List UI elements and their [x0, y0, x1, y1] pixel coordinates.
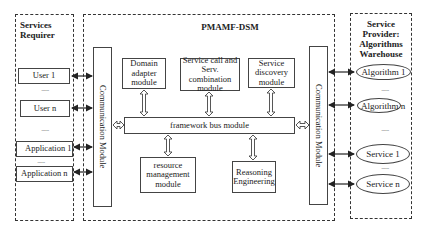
- service-provider-title: Service Provider: Algorithms Warehouse: [351, 19, 411, 59]
- left-communication-module: Communication Module: [93, 47, 112, 207]
- requirer-application-n: Application n: [16, 166, 73, 182]
- requirer-user-n: User n: [20, 100, 70, 117]
- requirer-application-1: Application 1: [16, 141, 73, 157]
- framework-bus-module: framework bus module: [124, 117, 295, 134]
- resource-management-module: resource management module: [140, 157, 196, 193]
- ellipsis: ......: [30, 85, 60, 93]
- requirer-user-1: User 1: [18, 68, 70, 84]
- service-discovery-module: Service discovery module: [248, 58, 295, 88]
- ellipsis: ......: [30, 125, 60, 133]
- services-requirer-title: Services Requirer: [20, 20, 70, 40]
- ellipsis: ......: [26, 157, 56, 165]
- reasoning-engineering-module: Reasoning Engineering: [232, 161, 276, 193]
- domain-adapter-module: Domain adapter module: [122, 58, 166, 89]
- services-requirer-panel: [15, 14, 74, 221]
- pmamf-dsm-title: PMAMF-DSM: [190, 22, 270, 32]
- ellipsis: ......: [370, 163, 400, 171]
- ellipsis: ......: [370, 125, 400, 133]
- provider-service-1: Service 1: [356, 144, 410, 164]
- provider-service-n: Service n: [356, 174, 410, 194]
- ellipsis: ......: [370, 85, 400, 93]
- right-communication-module: Communication Module: [309, 46, 328, 205]
- service-call-combination-module: Service call and Serv. combination modul…: [180, 58, 240, 91]
- provider-algorithm-1: Algorithm 1: [356, 64, 411, 80]
- provider-algorithm-n: Algorithm n: [357, 98, 401, 113]
